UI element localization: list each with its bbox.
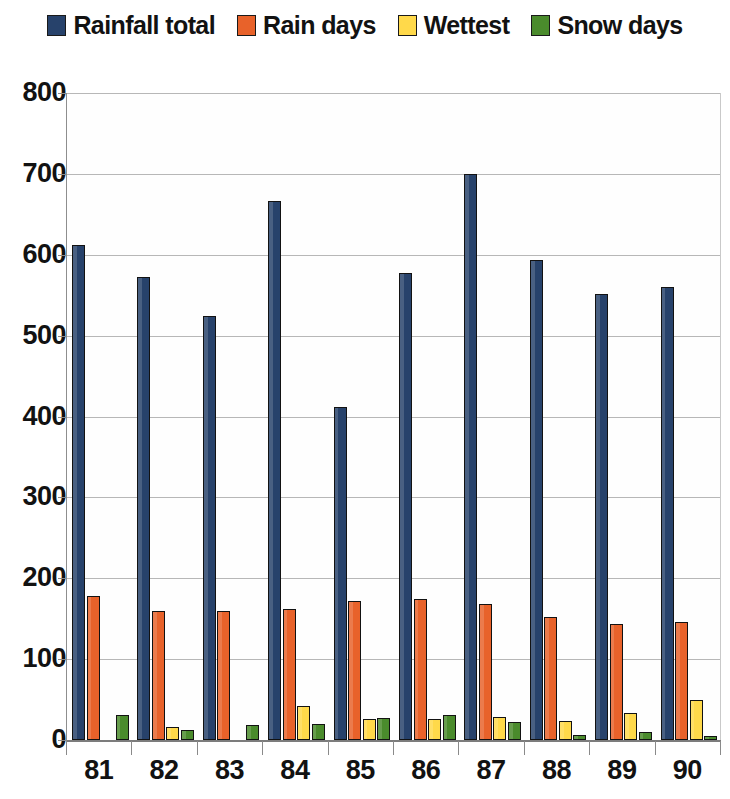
bar-snow-days[interactable] <box>508 722 521 740</box>
bar-highlight <box>284 610 288 739</box>
bar-group <box>268 93 325 740</box>
bar-rain-days[interactable] <box>479 604 492 740</box>
bar-highlight <box>574 736 578 739</box>
x-axis-tick-mark <box>458 741 459 755</box>
bar-highlight <box>153 612 157 739</box>
bar-highlight <box>298 707 302 739</box>
bar-group <box>595 93 652 740</box>
bar-rainfall-total[interactable] <box>464 174 477 740</box>
x-axis-tick-label: 90 <box>655 757 720 784</box>
bar-rain-days[interactable] <box>675 622 688 740</box>
x-axis-tick-label: 82 <box>131 757 196 784</box>
x-axis-tick-label: 83 <box>197 757 262 784</box>
bar-highlight <box>247 726 251 739</box>
bar-rain-days[interactable] <box>348 601 361 740</box>
bar-snow-days[interactable] <box>116 715 129 740</box>
bar-wettest[interactable] <box>559 721 572 740</box>
x-axis-tick-mark <box>66 741 67 755</box>
bar-highlight <box>596 295 600 739</box>
x-axis-tick-label: 89 <box>589 757 654 784</box>
plot-right-border <box>720 93 721 741</box>
bar-highlight <box>415 600 419 739</box>
bar-highlight <box>444 716 448 739</box>
x-axis-tick-mark <box>131 741 132 755</box>
x-axis-tick-mark <box>524 741 525 755</box>
bar-rainfall-total[interactable] <box>661 287 674 740</box>
bar-rainfall-total[interactable] <box>595 294 608 740</box>
bar-rain-days[interactable] <box>87 596 100 740</box>
bar-wettest[interactable] <box>363 719 376 740</box>
bar-rainfall-total[interactable] <box>399 273 412 740</box>
bar-highlight <box>88 597 92 739</box>
bar-rainfall-total[interactable] <box>268 201 281 740</box>
x-axis-tick-mark <box>720 741 721 755</box>
bar-group <box>334 93 391 740</box>
bar-rain-days[interactable] <box>283 609 296 740</box>
bar-wettest[interactable] <box>493 717 506 740</box>
bar-snow-days[interactable] <box>312 724 325 740</box>
bar-rain-days[interactable] <box>217 611 230 740</box>
bar-highlight <box>480 605 484 739</box>
x-axis-tick-mark <box>262 741 263 755</box>
bar-snow-days[interactable] <box>639 732 652 740</box>
bar-group <box>464 93 521 740</box>
bar-rain-days[interactable] <box>152 611 165 740</box>
bar-snow-days[interactable] <box>246 725 259 740</box>
bar-wettest[interactable] <box>166 727 179 740</box>
bar-group <box>399 93 456 740</box>
bar-rain-days[interactable] <box>544 617 557 740</box>
x-axis-tick-label: 86 <box>393 757 458 784</box>
x-axis-tick-label: 85 <box>328 757 393 784</box>
bar-highlight <box>509 723 513 739</box>
bar-wettest[interactable] <box>624 713 637 740</box>
bar-highlight <box>691 701 695 739</box>
bars-layer <box>66 93 720 740</box>
bar-highlight <box>269 202 273 739</box>
x-axis-tick-label: 87 <box>458 757 523 784</box>
bar-highlight <box>364 720 368 739</box>
bar-highlight <box>378 719 382 739</box>
bar-highlight <box>560 722 564 739</box>
x-axis-tick-mark <box>589 741 590 755</box>
y-axis-ticks: 8007006005004003002001000 <box>0 0 66 799</box>
bar-highlight <box>662 288 666 739</box>
bar-wettest[interactable] <box>297 706 310 740</box>
bar-rain-days[interactable] <box>414 599 427 740</box>
bar-highlight <box>611 625 615 739</box>
bar-group <box>203 93 260 740</box>
bar-highlight <box>625 714 629 739</box>
rainfall-bar-chart: Rainfall totalRain daysWettestSnow days … <box>0 0 730 799</box>
bar-snow-days[interactable] <box>443 715 456 740</box>
bar-highlight <box>218 612 222 739</box>
bar-rainfall-total[interactable] <box>72 245 85 740</box>
bar-highlight <box>313 725 317 739</box>
x-axis-tick-mark <box>655 741 656 755</box>
bar-rain-days[interactable] <box>610 624 623 740</box>
bar-highlight <box>545 618 549 739</box>
bar-highlight <box>531 261 535 739</box>
bar-wettest[interactable] <box>428 719 441 740</box>
bar-rainfall-total[interactable] <box>334 407 347 740</box>
bar-group <box>661 93 718 740</box>
x-axis-tick-mark <box>393 741 394 755</box>
x-axis-tick-label: 81 <box>66 757 131 784</box>
bar-highlight <box>465 175 469 739</box>
bar-highlight <box>640 733 644 739</box>
bar-highlight <box>167 728 171 739</box>
bar-rainfall-total[interactable] <box>530 260 543 740</box>
chart-plot-wrapper: 8007006005004003002001000 81828384858687… <box>0 0 730 799</box>
bar-rainfall-total[interactable] <box>203 316 216 740</box>
bar-highlight <box>73 246 77 739</box>
bar-snow-days[interactable] <box>573 735 586 740</box>
bar-snow-days[interactable] <box>181 730 194 741</box>
bar-highlight <box>117 716 121 739</box>
bar-snow-days[interactable] <box>377 718 390 740</box>
bar-highlight <box>494 718 498 739</box>
bar-rainfall-total[interactable] <box>137 277 150 740</box>
bar-highlight <box>400 274 404 739</box>
x-axis-tick-mark <box>197 741 198 755</box>
bar-snow-days[interactable] <box>704 736 717 740</box>
bar-group <box>530 93 587 740</box>
bar-wettest[interactable] <box>690 700 703 740</box>
bar-highlight <box>349 602 353 739</box>
